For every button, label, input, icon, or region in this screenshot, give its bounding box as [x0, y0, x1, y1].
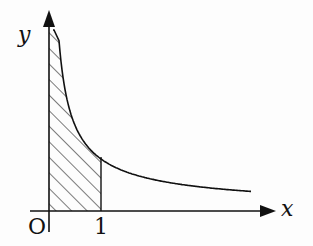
tick-1-label: 1: [94, 214, 108, 239]
origin-label: O: [28, 214, 46, 239]
y-axis-label: y: [18, 22, 30, 47]
shaded-region: [49, 30, 101, 211]
y-axis-arrow-icon: [43, 10, 55, 27]
plot-svg: [0, 0, 313, 246]
x-axis-label: x: [281, 196, 293, 221]
diagram: y x O 1: [0, 0, 313, 246]
x-axis-arrow-icon: [260, 205, 276, 217]
